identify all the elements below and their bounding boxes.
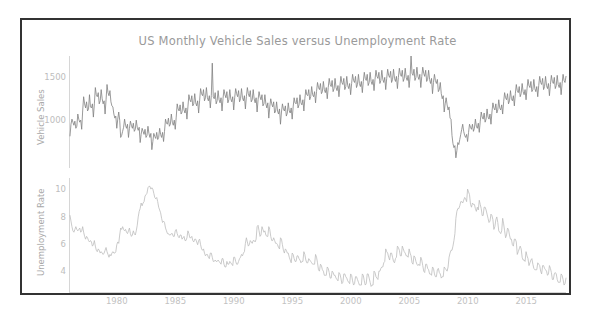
vehicle-sales-line-chart — [70, 56, 566, 168]
plot-area-vehicle-sales — [70, 56, 566, 168]
x-tick-label-1990: 1990 — [214, 296, 254, 306]
x-tick-label-2015: 2015 — [506, 296, 546, 306]
unemployment-rate-series-line — [70, 186, 566, 286]
x-tick-label-1985: 1985 — [155, 296, 195, 306]
unemployment-rate-line-chart — [70, 178, 566, 292]
figure-frame: US Monthly Vehicle Sales versus Unemploy… — [20, 18, 571, 295]
y-tick-label-1500: 1500 — [30, 72, 66, 82]
y-tick-label-6: 6 — [30, 239, 66, 249]
x-tick-label-1995: 1995 — [272, 296, 312, 306]
x-tick-label-2005: 2005 — [389, 296, 429, 306]
y-tick-label-8: 8 — [30, 212, 66, 222]
x-tick-label-2000: 2000 — [331, 296, 371, 306]
y-tick-label-10: 10 — [30, 184, 66, 194]
y-tick-label-1000: 1000 — [30, 115, 66, 125]
x-tick-label-1980: 1980 — [97, 296, 137, 306]
page-title: US Monthly Vehicle Sales versus Unemploy… — [22, 34, 573, 48]
plot-area-unemployment-rate — [70, 178, 566, 292]
y-tick-label-4: 4 — [30, 266, 66, 276]
y-axis-label-unemployment-rate: Unemployment Rate — [36, 188, 46, 276]
x-tick-label-2010: 2010 — [448, 296, 488, 306]
bottom-panel-bottom-spine — [69, 292, 566, 293]
vehicle-sales-series-line — [70, 56, 566, 158]
